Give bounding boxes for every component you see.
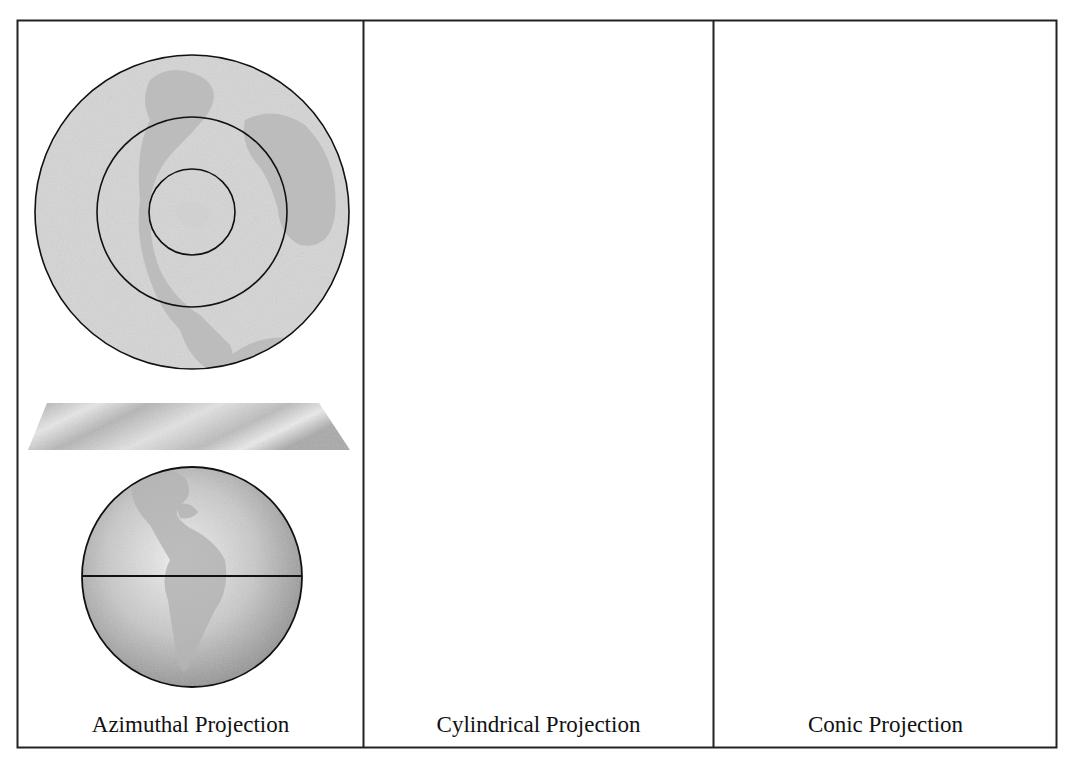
conic-projection-label: Conic Projection [714, 709, 1057, 741]
azimuthal-projection-label: Azimuthal Projection [18, 709, 363, 741]
azimuthal-globe [82, 467, 302, 687]
map-projections-figure [0, 0, 1074, 760]
cylindrical-projection-label: Cylindrical Projection [364, 709, 713, 741]
azimuthal-panel [28, 55, 350, 687]
azimuthal-plane [28, 403, 350, 450]
azimuthal-map [35, 55, 349, 372]
